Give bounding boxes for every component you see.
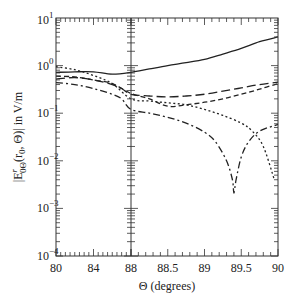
series-short-dash: [56, 76, 278, 106]
ticks-group: [56, 18, 278, 256]
axes-group: [56, 18, 278, 256]
series-dotted: [56, 67, 274, 180]
x-axis-title: Θ (degrees): [139, 279, 195, 293]
x-tick-label: 89: [199, 261, 211, 275]
x-tick-label: 80: [50, 261, 62, 275]
tick-labels-group: 10110010−110−210−310−480848888.58989.590: [37, 10, 284, 275]
x-tick-label: 89.5: [231, 261, 252, 275]
plot-canvas: 10110010−110−210−310−480848888.58989.590…: [0, 0, 294, 298]
plot-frame: [56, 18, 278, 256]
y-tick-label: 10−2: [37, 151, 59, 168]
y-tick-label: 101: [37, 10, 54, 27]
x-tick-label: 90: [272, 261, 284, 275]
y-tick-label: 100: [37, 56, 54, 73]
x-tick-label: 84: [88, 261, 100, 275]
series-dash-dot: [56, 83, 278, 193]
x-tick-label: 88.5: [157, 261, 178, 275]
x-tick-label: 88: [125, 261, 137, 275]
y-title-tail: , Θ)| in V/m: [11, 91, 25, 149]
y-title-sub: 0Θ: [18, 161, 28, 173]
y-tick-label: 10−1: [37, 103, 59, 120]
data-series-group: [56, 37, 278, 193]
chart: 10110010−110−210−310−480848888.58989.590…: [0, 0, 294, 298]
y-title-rest: (r: [11, 154, 25, 162]
y-axis-title: |Er0Θ(r0, Θ)| in V/m: [9, 91, 28, 182]
series-solid: [56, 37, 278, 74]
